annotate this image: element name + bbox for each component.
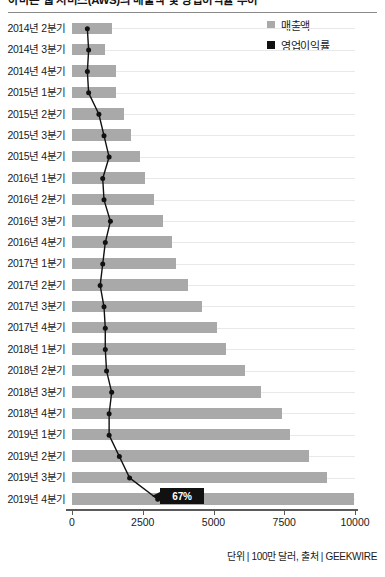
- bar-revenue: [72, 151, 140, 163]
- margin-callout-label: 67%: [172, 491, 191, 502]
- chart-row: 2018년 1분기: [0, 339, 385, 360]
- category-label: 2016년 3분기: [0, 211, 66, 232]
- category-label: 2017년 3분기: [0, 296, 66, 317]
- category-label: 2018년 1분기: [0, 339, 66, 360]
- bar-revenue: [72, 65, 116, 77]
- chart-row: 2017년 4분기: [0, 317, 385, 338]
- bar-revenue: [72, 44, 105, 56]
- x-tick-label: 7500: [273, 516, 296, 528]
- chart-row: 2019년 3분기: [0, 467, 385, 488]
- chart-row: 2017년 1분기: [0, 253, 385, 274]
- x-tick: [355, 510, 356, 515]
- chart-row: 2019년 2분기: [0, 446, 385, 467]
- bar-revenue: [72, 386, 261, 398]
- bar-revenue: [72, 172, 145, 184]
- category-label: 2014년 2분기: [0, 18, 66, 39]
- plot-area: 2014년 2분기2014년 3분기2014년 4분기2015년 1분기2015…: [0, 18, 385, 510]
- category-label: 2015년 3분기: [0, 125, 66, 146]
- category-label: 2018년 3분기: [0, 382, 66, 403]
- category-label: 2015년 4분기: [0, 146, 66, 167]
- chart-row: 2016년 1분기: [0, 168, 385, 189]
- chart-row: 2019년 1분기: [0, 424, 385, 445]
- bar-revenue: [72, 301, 202, 313]
- callout-arrow-icon: [152, 492, 160, 500]
- bar-revenue: [72, 194, 154, 206]
- bar-revenue: [72, 365, 245, 377]
- chart-row: 2015년 3분기: [0, 125, 385, 146]
- bar-revenue: [72, 408, 282, 420]
- bar-revenue: [72, 236, 172, 248]
- bar-revenue: [72, 258, 176, 270]
- x-tick-label: 5000: [202, 516, 225, 528]
- bar-revenue: [72, 279, 188, 291]
- x-tick: [72, 510, 73, 515]
- category-label: 2017년 2분기: [0, 275, 66, 296]
- bar-revenue: [72, 343, 226, 355]
- category-label: 2019년 1분기: [0, 424, 66, 445]
- chart-row: 2016년 4분기: [0, 232, 385, 253]
- chart-row: 2014년 2분기: [0, 18, 385, 39]
- x-tick: [284, 510, 285, 515]
- x-axis-line: [66, 509, 358, 511]
- category-label: 2015년 1분기: [0, 82, 66, 103]
- chart-row: 2017년 2분기: [0, 275, 385, 296]
- category-label: 2019년 3분기: [0, 467, 66, 488]
- chart-row: 2018년 3분기: [0, 382, 385, 403]
- category-label: 2019년 4분기: [0, 489, 66, 510]
- chart-row: 2016년 2분기: [0, 189, 385, 210]
- chart-row: 2015년 4분기: [0, 146, 385, 167]
- bar-revenue: [72, 215, 163, 227]
- category-label: 2015년 2분기: [0, 104, 66, 125]
- bar-revenue: [72, 129, 131, 141]
- category-label: 2018년 4분기: [0, 403, 66, 424]
- category-label: 2016년 4분기: [0, 232, 66, 253]
- x-tick-label: 0: [69, 516, 75, 528]
- category-label: 2018년 2분기: [0, 360, 66, 381]
- bar-revenue: [72, 108, 124, 120]
- category-label: 2017년 4분기: [0, 317, 66, 338]
- category-label: 2016년 2분기: [0, 189, 66, 210]
- bar-revenue: [72, 87, 116, 99]
- chart-row: 2015년 2분기: [0, 104, 385, 125]
- chart-row: 2018년 2분기: [0, 360, 385, 381]
- chart-row: 2018년 4분기: [0, 403, 385, 424]
- chart-row: 2014년 3분기: [0, 39, 385, 60]
- x-tick-label: 2500: [131, 516, 154, 528]
- gridline: [72, 28, 355, 29]
- bar-revenue: [72, 23, 112, 35]
- chart-container: 아마존 웹 서비스(AWS)의 매출액 및 영업이익률 추이 매출액 영업이익률…: [0, 0, 385, 577]
- bar-revenue: [72, 322, 217, 334]
- title-divider: [8, 12, 377, 13]
- x-tick: [143, 510, 144, 515]
- x-tick-label: 10000: [340, 516, 369, 528]
- bar-revenue: [72, 450, 309, 462]
- category-label: 2014년 3분기: [0, 39, 66, 60]
- gridline: [72, 50, 355, 51]
- category-label: 2019년 2분기: [0, 446, 66, 467]
- margin-callout: 67%: [160, 488, 204, 504]
- chart-row: 2015년 1분기: [0, 82, 385, 103]
- category-label: 2016년 1분기: [0, 168, 66, 189]
- chart-row: 2016년 3분기: [0, 211, 385, 232]
- bar-revenue: [72, 472, 327, 484]
- chart-row: 2017년 3분기: [0, 296, 385, 317]
- bar-revenue: [72, 493, 354, 505]
- category-label: 2014년 4분기: [0, 61, 66, 82]
- category-label: 2017년 1분기: [0, 253, 66, 274]
- chart-row: 2014년 4분기: [0, 61, 385, 82]
- bar-revenue: [72, 429, 290, 441]
- chart-title: 아마존 웹 서비스(AWS)의 매출액 및 영업이익률 추이: [8, 0, 338, 7]
- x-tick: [214, 510, 215, 515]
- chart-footnote: 단위 | 100만 달러, 출처 | GEEKWIRE: [227, 548, 377, 563]
